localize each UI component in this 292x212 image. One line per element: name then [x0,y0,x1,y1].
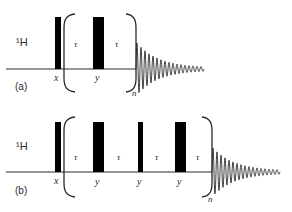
pulse-a-1 [55,17,61,69]
phase-label-b-3: y [136,176,142,187]
delay-label-b-2: τ [117,152,121,162]
pulse-sequence-diagram: ¹H (a) x y τ τ n ¹H (b) x y y y τ τ τ τ … [0,0,292,212]
pulse-b-2 [93,122,104,172]
phase-label-a-1: x [53,72,59,83]
panel-b: ¹H (b) x y y y τ τ τ τ n [6,117,280,204]
bracket-right-b [202,117,212,197]
panel-label-b: (b) [15,185,27,196]
fid-signal-b [212,148,280,194]
delay-label-b-4: τ [196,152,200,162]
nucleus-label-a: ¹H [16,36,28,48]
delay-label-a-1: τ [74,39,78,49]
repeat-label-a: n [132,88,137,98]
phase-label-b-2: y [94,176,100,187]
bracket-left-a [64,14,75,92]
panel-a: ¹H (a) x y τ τ n [6,14,204,98]
delay-label-b-1: τ [74,152,78,162]
phase-label-a-2: y [94,72,100,83]
delay-label-a-2: τ [115,39,119,49]
fid-signal-a [136,43,204,93]
delay-label-b-3: τ [155,152,159,162]
phase-label-b-4: y [176,176,182,187]
repeat-label-b: n [208,194,213,204]
pulse-b-3 [138,122,143,172]
pulse-b-1 [55,122,61,172]
panel-label-a: (a) [15,81,27,92]
phase-label-b-1: x [53,175,59,186]
nucleus-label-b: ¹H [16,140,28,152]
pulse-a-2 [93,17,104,69]
bracket-right-a [126,14,136,92]
pulse-b-4 [175,122,186,172]
